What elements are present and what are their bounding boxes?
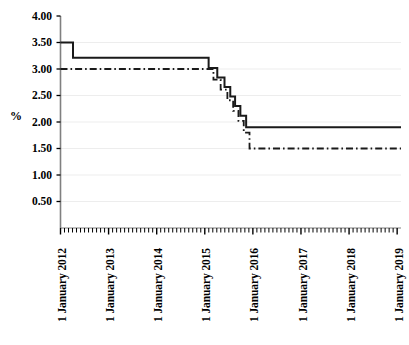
x-tick-label: 1 January 2016 [248,248,260,322]
y-tick-label: 3.00 [14,63,52,75]
x-tick-label: 1 January 2014 [152,248,164,322]
x-tick-label: 1 January 2013 [104,248,116,322]
x-tick-label: 1 January 2012 [56,248,68,322]
y-tick-label: 2.00 [14,116,52,128]
x-axis-ticks [61,228,398,235]
y-tick-label: 2.50 [14,89,52,101]
y-tick-label: 4.00 [14,10,52,22]
x-tick-label: 1 January 2015 [200,248,212,322]
series-line-dashdot-series [61,69,402,149]
y-tick-label: 3.50 [14,36,52,48]
y-tick-label: 1.00 [14,169,52,181]
y-tick-label: 1.50 [14,142,52,154]
series-line-solid-series [61,43,402,128]
x-tick-label: 1 January 2019 [393,248,405,322]
chart-figure: % 0.501.001.502.002.503.003.504.00 1 Jan… [0,0,409,345]
x-tick-label: 1 January 2017 [297,248,309,322]
y-tick-label: 0.50 [14,195,52,207]
gridlines [61,43,402,202]
x-tick-label: 1 January 2018 [345,248,357,322]
